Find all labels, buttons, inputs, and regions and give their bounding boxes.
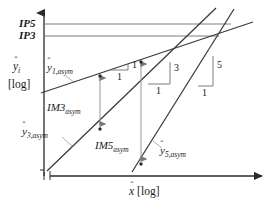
x-axis bbox=[44, 171, 262, 180]
curve-label-y3-subscript: 3,asym bbox=[27, 131, 48, 140]
diagram-canvas bbox=[0, 0, 269, 207]
x-axis-label: ˆx[log] bbox=[129, 186, 159, 198]
curve-label-y1-asym: ˆy1,asym bbox=[47, 62, 73, 76]
y-axis-label-subscript: i bbox=[18, 66, 20, 75]
im3-label-main: IM3 bbox=[47, 101, 65, 113]
ip5-label: IP5 bbox=[19, 18, 36, 29]
slope-3-1-run-label: 1 bbox=[156, 86, 161, 96]
slope-triangle-3-1 bbox=[148, 62, 170, 84]
slope-triangle-5-1 bbox=[198, 56, 213, 86]
slope-1-1-run-label: 1 bbox=[117, 72, 122, 82]
slope-5-1-run-label: 1 bbox=[202, 88, 207, 98]
slope-3-1-rise-label: 3 bbox=[174, 63, 179, 73]
im5-label-subscript: asym bbox=[113, 145, 128, 154]
leader-line-y1 bbox=[66, 76, 75, 83]
im3-label-subscript: asym bbox=[65, 107, 80, 116]
y-axis-label: ˆyi bbox=[13, 61, 20, 75]
slope-5-1-rise-label: 5 bbox=[217, 60, 222, 70]
curve-y1-asym bbox=[41, 22, 253, 93]
curve-label-y5-asym: ˆy5,asym bbox=[160, 145, 186, 159]
slope-1-1-rise-label: 1 bbox=[132, 60, 137, 70]
im5-label: IM5asym bbox=[95, 140, 129, 154]
y-axis-units: [log] bbox=[8, 79, 30, 91]
asymptotic-intercept-point-diagram: IP5 IP3 ˆyi [log] ˆy1,asym IM3asym ˆy3,a… bbox=[0, 0, 269, 207]
im5-label-main: IM5 bbox=[95, 139, 113, 151]
curve-label-y5-subscript: 5,asym bbox=[165, 150, 186, 159]
im3-measurement-arrow bbox=[98, 74, 101, 130]
im3-label: IM3asym bbox=[47, 102, 81, 116]
y-axis bbox=[40, 13, 44, 176]
x-axis-units: [log] bbox=[137, 185, 159, 197]
im5-measurement-arrow bbox=[139, 60, 142, 165]
curve-label-y3-asym: ˆy3,asym bbox=[22, 126, 48, 140]
y-axis-hat-icon: ˆ bbox=[14, 56, 17, 66]
curve-label-y1-subscript: 1,asym bbox=[52, 67, 73, 76]
curve-y3-asym bbox=[47, 8, 216, 171]
ip3-label: IP3 bbox=[19, 30, 36, 41]
leader-line-y3 bbox=[62, 137, 72, 146]
x-axis-hat-icon: ˆ bbox=[130, 181, 133, 191]
